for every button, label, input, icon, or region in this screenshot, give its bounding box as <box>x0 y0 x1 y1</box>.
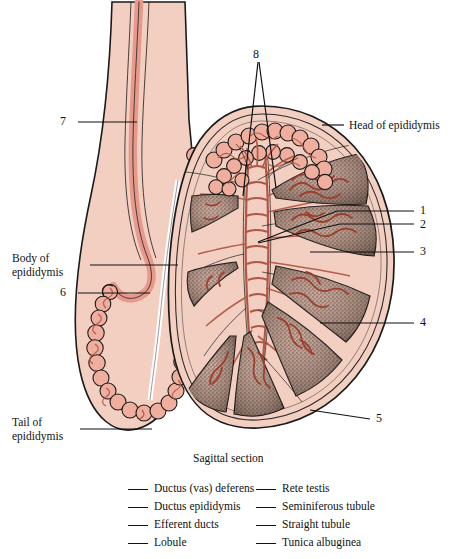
legend-item[interactable]: Ductus (vas) deferens <box>128 482 256 500</box>
label-body-of-epididymis-line2: epididymis <box>12 266 63 279</box>
number-label-6: 6 <box>60 286 66 298</box>
number-label-8: 8 <box>253 48 259 60</box>
legend-label: Lobule <box>154 536 187 548</box>
legend-item[interactable]: Tunica albuginea <box>256 536 428 554</box>
label-tail-of-epididymis-line2: epididymis <box>12 430 63 443</box>
number-label-4: 4 <box>420 316 426 328</box>
legend-label: Ductus (vas) deferens <box>154 482 254 494</box>
leader-5 <box>310 410 370 419</box>
legend-item[interactable]: Straight tubule <box>256 518 428 536</box>
legend-item[interactable]: Lobule <box>128 536 256 554</box>
label-tail-of-epididymis-line1: Tail of <box>12 416 42 429</box>
legend-item[interactable]: Seminiferous tubule <box>256 500 428 518</box>
number-label-2: 2 <box>420 218 426 230</box>
number-label-5: 5 <box>376 412 382 424</box>
answer-blank[interactable] <box>128 489 148 490</box>
legend-label: Straight tubule <box>282 518 350 530</box>
answer-blank[interactable] <box>128 543 148 544</box>
legend-label: Tunica albuginea <box>282 536 361 548</box>
legend-label: Efferent ducts <box>154 518 219 530</box>
anatomy-diagram <box>0 0 462 559</box>
answer-blank[interactable] <box>256 525 276 526</box>
legend-answer-list: Ductus (vas) deferens Rete testis Ductus… <box>128 482 428 554</box>
number-label-7: 7 <box>60 115 66 127</box>
number-label-1: 1 <box>420 204 426 216</box>
legend-label: Seminiferous tubule <box>282 500 375 512</box>
number-label-3: 3 <box>420 245 426 257</box>
legend-item[interactable]: Efferent ducts <box>128 518 256 536</box>
testis-group <box>168 106 394 428</box>
legend-label: Ductus epididymis <box>154 500 241 512</box>
legend-item[interactable]: Rete testis <box>256 482 428 500</box>
answer-blank[interactable] <box>256 507 276 508</box>
label-head-of-epididymis: Head of epididymis <box>349 119 440 132</box>
answer-blank[interactable] <box>128 507 148 508</box>
legend-label: Rete testis <box>282 482 330 494</box>
legend-item[interactable]: Ductus epididymis <box>128 500 256 518</box>
answer-blank[interactable] <box>256 489 276 490</box>
answer-blank[interactable] <box>256 543 276 544</box>
label-body-of-epididymis-line1: Body of <box>12 252 49 265</box>
figure-caption: Sagittal section <box>193 452 264 464</box>
answer-blank[interactable] <box>128 525 148 526</box>
